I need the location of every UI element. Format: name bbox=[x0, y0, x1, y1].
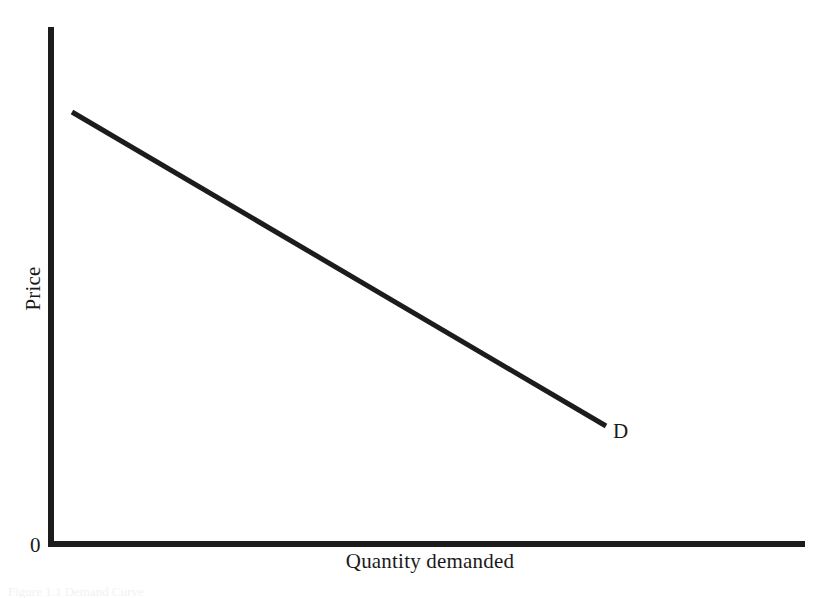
y-axis bbox=[48, 27, 54, 547]
x-axis bbox=[48, 541, 805, 547]
figure-caption: Figure 1.1 Demand Curve bbox=[8, 585, 428, 598]
x-axis-label: Quantity demanded bbox=[280, 551, 580, 572]
origin-label: 0 bbox=[30, 535, 41, 556]
y-axis-label: Price bbox=[23, 244, 44, 334]
demand-curve-line bbox=[72, 112, 606, 426]
demand-curve-label: D bbox=[613, 421, 628, 442]
